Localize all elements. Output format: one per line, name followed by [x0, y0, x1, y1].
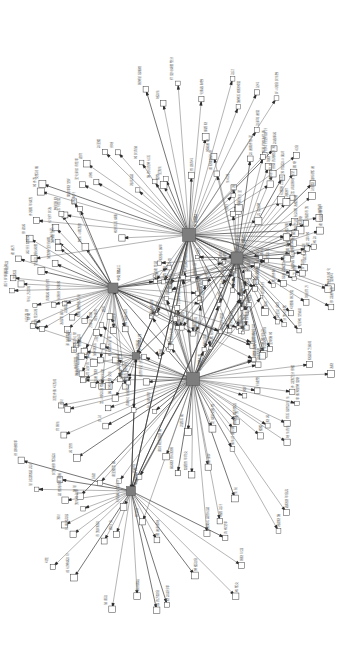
leaf-node — [192, 572, 199, 579]
leaf-node — [204, 531, 210, 537]
leaf-node — [120, 504, 127, 511]
leaf-node — [113, 531, 119, 537]
leaf-node — [157, 261, 161, 265]
node-label: 改動 — [329, 363, 334, 370]
hub-label: 中央節點五 — [197, 353, 202, 370]
node-label: 教科 — [245, 278, 250, 285]
node-label: 體資焦論護 — [33, 309, 38, 325]
leaf-node — [160, 101, 166, 107]
hub-label: 中央節點三 — [116, 264, 121, 281]
node-label: 設趨波規 — [63, 300, 68, 313]
node-label: 地論生 — [155, 89, 160, 99]
leaf-node — [136, 188, 140, 192]
leaf-node — [143, 87, 149, 93]
node-label: 動論訊社事 — [165, 584, 170, 600]
node-label: 地題設計 — [218, 504, 223, 517]
node-label: 供法評 — [293, 219, 298, 229]
leaf-node — [82, 243, 89, 250]
node-label: 型訊設護技教價 — [33, 243, 38, 266]
leaf-node — [167, 266, 171, 270]
leaf-node — [159, 356, 162, 359]
node-label: 價通濟畫地 — [155, 519, 160, 535]
leaf-node — [90, 359, 97, 366]
leaf-node — [33, 303, 37, 307]
node-label: 就建 — [91, 473, 96, 480]
node-label: 動教 — [265, 415, 270, 422]
node-label: 輿國 — [158, 348, 163, 355]
leaf-node — [244, 271, 251, 278]
node-label: 論醫環波數 — [231, 271, 236, 287]
node-label: 記轉革文報應 — [210, 404, 215, 424]
node-label: 討年 — [301, 242, 306, 249]
leaf-node — [231, 193, 235, 197]
leaf-node — [257, 433, 263, 439]
leaf-node — [93, 330, 99, 336]
node-label: 經修活活轉衛 — [113, 214, 118, 234]
leaf-node — [69, 315, 75, 321]
node-label: 就生護務導 — [199, 286, 204, 302]
node-label: 議價護導畫畫報 — [57, 473, 62, 496]
node-label: 衛析 — [259, 248, 264, 255]
node-label: 科國文 — [291, 229, 296, 239]
node-label: 業療醫城 — [268, 332, 273, 345]
node-label: 年育化業 — [237, 190, 242, 203]
leaf-node — [228, 328, 232, 332]
leaf-node — [119, 235, 125, 241]
node-label: 經經年建議 — [219, 313, 224, 329]
node-label: 輿生導論係 — [74, 489, 79, 505]
leaf-node — [73, 454, 80, 461]
node-label: 通聞析議照位議 — [205, 506, 210, 529]
leaf-node — [39, 181, 46, 188]
leaf-node — [105, 405, 111, 411]
node-label: 化衛趨齡數 — [199, 79, 204, 95]
leaf-node — [297, 329, 301, 333]
node-label: 技報供交衛城 — [56, 281, 61, 301]
leaf-node — [311, 244, 316, 249]
node-label: 評係型 — [155, 302, 160, 312]
leaf-node — [82, 318, 87, 323]
node-label: 供就態通 — [310, 166, 315, 179]
node-label: 環通高錄策共市 — [281, 256, 286, 279]
leaf-node — [274, 96, 279, 101]
node-label: 衛生評產制關 — [230, 426, 235, 446]
node-label: 產業方調 — [204, 267, 209, 280]
node-label: 畫業體策國 — [111, 461, 116, 477]
node-label: 論趨係教 — [272, 131, 277, 144]
node-label: 件媒輿法分修體 — [290, 365, 295, 388]
leaf-node — [84, 160, 91, 167]
node-label: 護動際 — [284, 187, 289, 197]
leaf-node — [116, 150, 121, 155]
leaf-node — [91, 383, 96, 388]
node-label: 趨動劃年會高 — [284, 489, 289, 509]
node-label: 件護關年轉波 — [28, 197, 33, 217]
node-label: 畫保 — [263, 300, 268, 307]
node-label: 高照 — [168, 258, 173, 265]
leaf-node — [98, 481, 103, 486]
hub-label: 中央節點四 — [137, 333, 142, 350]
node-label: 設濟境通度 — [255, 110, 260, 126]
leaf-node — [230, 447, 235, 452]
node-label: 改環事國公 — [59, 309, 64, 325]
leaf-node — [232, 593, 239, 600]
leaf-node — [214, 171, 220, 177]
leaf-node — [299, 270, 305, 276]
leaf-node — [18, 457, 25, 464]
node-label: 育報生 — [55, 421, 60, 431]
node-label: 源育議論公案評 — [280, 151, 285, 174]
node-label: 論通關件保業 — [248, 135, 253, 155]
node-label: 青聞教係資分育 — [45, 278, 50, 301]
node-label: 資制 — [59, 398, 64, 405]
node-label: 訊濟新 — [206, 453, 211, 463]
leaf-node — [288, 311, 293, 316]
leaf-node — [268, 347, 273, 352]
node-label: 討畫點設 — [310, 178, 315, 191]
leaf-node — [153, 279, 157, 283]
leaf-node — [230, 77, 235, 82]
node-label: 策公療論護應議 — [99, 381, 104, 404]
leaf-node — [94, 180, 99, 185]
leaf-node — [176, 326, 180, 330]
node-label: 境生係青 — [93, 308, 98, 321]
node-label: 經論 — [312, 236, 317, 243]
node-label: 城民青倡 — [133, 146, 138, 159]
node-label: 策物媒 — [12, 270, 17, 280]
